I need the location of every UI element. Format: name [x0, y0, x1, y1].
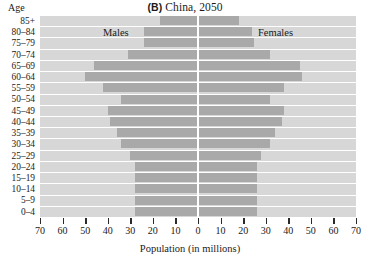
male-bar [94, 61, 198, 70]
x-tick-label: 10 [216, 225, 226, 236]
male-bar [85, 72, 198, 81]
y-axis-tick-labels: 85+80–8475–7970–7465–6960–6455–5950–5445… [0, 16, 37, 218]
x-tick-label: 70 [35, 225, 45, 236]
population-pyramid-chart: (B) China, 2050 Age 85+80–8475–7970–7465… [0, 0, 370, 264]
x-tick-mark [243, 218, 244, 224]
y-tick-label: 5–9 [21, 196, 35, 205]
x-tick-label: 70 [351, 225, 361, 236]
center-axis-line [197, 16, 198, 218]
x-tick-mark [40, 218, 41, 224]
female-bar [198, 196, 257, 205]
x-tick-label: 20 [238, 225, 248, 236]
male-bar [135, 184, 198, 193]
female-bar [198, 50, 270, 59]
x-tick-mark [153, 218, 154, 224]
male-bar [130, 151, 198, 160]
male-bar [128, 50, 198, 59]
female-bar [198, 207, 257, 216]
y-tick-label: 75–79 [12, 39, 35, 48]
x-tick-mark [356, 218, 357, 224]
y-tick-label: 50–54 [12, 95, 35, 104]
x-tick-label: 30 [261, 225, 271, 236]
x-tick-label: 60 [328, 225, 338, 236]
y-tick-label: 15–19 [12, 174, 35, 183]
x-tick-label: 0 [196, 225, 201, 236]
x-tick-label: 10 [170, 225, 180, 236]
male-bar [135, 162, 198, 171]
females-group-label: Females [258, 27, 293, 38]
male-bar [108, 106, 198, 115]
y-tick-label: 60–64 [12, 73, 35, 82]
x-tick-mark [130, 218, 131, 224]
male-bar [121, 139, 198, 148]
female-bar [198, 173, 257, 182]
x-tick-mark [175, 218, 176, 224]
female-bar [198, 61, 300, 70]
male-bar [121, 95, 198, 104]
x-tick-label: 20 [148, 225, 158, 236]
female-bar [198, 95, 270, 104]
male-bar [144, 27, 198, 36]
female-bar [198, 128, 275, 137]
y-tick-label: 30–34 [12, 140, 35, 149]
male-bar [135, 196, 198, 205]
y-axis-title: Age [8, 2, 25, 13]
y-tick-label: 10–14 [12, 185, 35, 194]
panel-letter: (B) [147, 1, 162, 13]
y-tick-label: 55–59 [12, 84, 35, 93]
y-tick-label: 40–44 [12, 118, 35, 127]
x-tick-label: 40 [283, 225, 293, 236]
y-tick-label: 20–24 [12, 163, 35, 172]
x-tick-label: 50 [80, 225, 90, 236]
x-tick-mark [221, 218, 222, 224]
x-tick-label: 40 [103, 225, 113, 236]
x-tick-label: 50 [306, 225, 316, 236]
chart-title-text: China, 2050 [165, 1, 222, 13]
female-bar [198, 106, 284, 115]
males-group-label: Males [103, 27, 129, 38]
x-tick-mark [288, 218, 289, 224]
female-bar [198, 184, 257, 193]
male-bar [135, 207, 198, 216]
x-axis-ticks [40, 218, 356, 225]
female-bar [198, 72, 302, 81]
male-bar [103, 83, 198, 92]
y-tick-label: 80–84 [12, 28, 35, 37]
y-tick-label: 65–69 [12, 62, 35, 71]
male-bar [160, 16, 198, 25]
male-bar [110, 117, 198, 126]
y-tick-label: 35–39 [12, 129, 35, 138]
y-tick-label: 25–29 [12, 152, 35, 161]
female-bar [198, 151, 261, 160]
x-axis-tick-labels: 70605040302010010203040506070 [0, 225, 370, 239]
y-tick-label: 45–49 [12, 107, 35, 116]
female-bar [198, 139, 270, 148]
female-bar [198, 162, 257, 171]
x-tick-label: 30 [125, 225, 135, 236]
x-tick-mark [266, 218, 267, 224]
male-bar [135, 173, 198, 182]
y-tick-label: 85+ [20, 17, 35, 26]
x-tick-mark [85, 218, 86, 224]
female-bar [198, 38, 254, 47]
y-tick-label: 70–74 [12, 51, 35, 60]
x-tick-mark [333, 218, 334, 224]
x-tick-mark [311, 218, 312, 224]
chart-title: (B) China, 2050 [0, 1, 370, 13]
male-bar [144, 38, 198, 47]
female-bar [198, 117, 282, 126]
x-tick-mark [63, 218, 64, 224]
female-bar [198, 27, 252, 36]
x-axis-title: Population (in millions) [40, 243, 340, 254]
plot-area: Males Females [40, 16, 356, 218]
x-tick-mark [108, 218, 109, 224]
y-tick-label: 0–4 [21, 208, 35, 217]
x-tick-mark [198, 218, 199, 224]
male-bar [117, 128, 198, 137]
female-bar [198, 16, 239, 25]
x-tick-label: 60 [58, 225, 68, 236]
female-bar [198, 83, 284, 92]
